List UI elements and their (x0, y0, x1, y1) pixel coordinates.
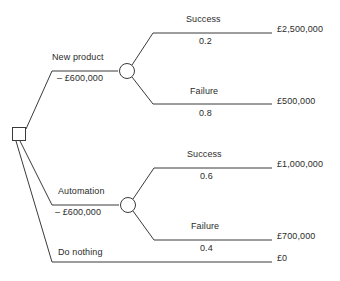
outcome-probability-automation-success: 0.6 (200, 171, 213, 181)
option-cost-new-product: – £600,000 (57, 73, 103, 83)
outcome-label-new-product-success: Success (186, 14, 221, 24)
chance-node-new-product (120, 64, 135, 79)
outcome-label-new-product-failure: Failure (190, 86, 218, 96)
outcome-probability-automation-failure: 0.4 (200, 243, 213, 253)
option-label-automation: Automation (58, 186, 105, 196)
outcome-label-automation-failure: Failure (191, 221, 219, 231)
outcome-probability-new-product-success: 0.2 (199, 36, 212, 46)
option-cost-automation: – £600,000 (55, 207, 101, 217)
payoff-automation-failure: £700,000 (277, 231, 315, 241)
payoff-automation-success: £1,000,000 (277, 159, 323, 169)
option-label-do-nothing: Do nothing (58, 247, 103, 257)
edge-root-to-do-nothing (16, 141, 272, 262)
chance-node-automation (121, 198, 136, 213)
decision-tree-diagram: New product – £600,000 Success 0.2 £2,50… (0, 0, 340, 281)
outcome-label-automation-success: Success (187, 149, 222, 159)
decision-node-square (13, 128, 26, 141)
payoff-new-product-failure: £500,000 (277, 96, 315, 106)
option-label-new-product: New product (52, 52, 104, 62)
payoff-new-product-success: £2,500,000 (277, 24, 323, 34)
payoff-do-nothing: £0 (277, 253, 287, 263)
outcome-probability-new-product-failure: 0.8 (199, 108, 212, 118)
